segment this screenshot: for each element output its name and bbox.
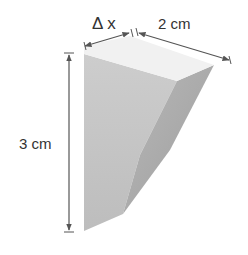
delta-x-label: Δ x	[92, 14, 116, 33]
height-label: 3 cm	[19, 135, 52, 152]
wedge-diagram: Δ x 2 cm 3 cm	[0, 0, 248, 255]
width-label: 2 cm	[158, 15, 191, 32]
